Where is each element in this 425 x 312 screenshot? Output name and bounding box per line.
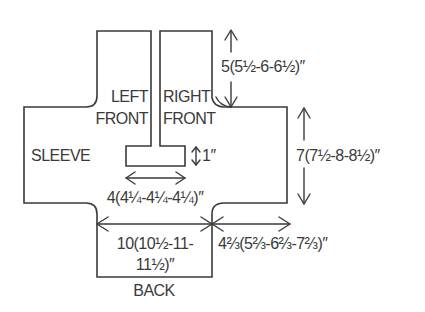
- sleeve-height-measurement: 7(7½-8-8½)″: [296, 145, 380, 166]
- collar-height-arrow: [192, 147, 200, 165]
- sleeve-length-measurement: 4⅔(5⅔-6⅔-7⅔)″: [218, 233, 327, 254]
- back-width-measurement-line2: 11½)″: [100, 254, 210, 275]
- right-front-label-line2: FRONT: [163, 108, 216, 129]
- collar-width-arrow: [126, 172, 185, 184]
- right-front-label-line1: RIGHT: [163, 86, 210, 107]
- back-label: BACK: [114, 280, 194, 301]
- sleeve-label: SLEEVE: [31, 145, 90, 166]
- collar-height-measurement: 1″: [202, 145, 216, 166]
- front-length-measurement: 5(5½-6-6½)″: [221, 56, 305, 77]
- sleeve-length-arrow: [212, 217, 290, 231]
- collar-width-measurement: 4(4¼-4¼-4¼)″: [80, 187, 230, 208]
- left-front-label-line1: LEFT: [108, 86, 148, 107]
- back-width-measurement-line1: 10(10½-11-: [100, 233, 210, 254]
- left-front-label-line2: FRONT: [88, 108, 148, 129]
- back-width-arrow: [97, 217, 212, 231]
- knitting-schematic: LEFT FRONT RIGHT FRONT SLEEVE BACK 5(5½-…: [0, 0, 425, 312]
